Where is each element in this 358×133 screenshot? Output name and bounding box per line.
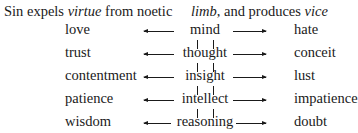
diagram-row: trust thought conceit	[0, 44, 353, 64]
diagram-row: patience intellect impatience	[0, 90, 353, 110]
arrow-left-icon	[144, 54, 174, 55]
virtue-word: wisdom	[65, 113, 111, 130]
virtue-word: love	[65, 21, 90, 38]
arrow-left-icon	[144, 123, 171, 124]
header-text: from noetic	[101, 3, 172, 19]
diagram-row: love mind hate	[0, 21, 353, 41]
arrow-right-icon	[233, 77, 266, 78]
diagram-row: contentment insight lust	[0, 67, 353, 87]
arrow-right-icon	[233, 100, 266, 101]
header-limb: limb	[191, 3, 217, 19]
header-text: Sin expels	[4, 3, 68, 19]
arrow-right-icon	[233, 54, 266, 55]
vice-word: lust	[294, 67, 315, 84]
vice-word: impatience	[294, 90, 358, 107]
arrow-right-icon	[233, 31, 266, 32]
virtue-word: patience	[65, 90, 113, 107]
header-left: Sin expels virtue from noetic	[4, 3, 172, 20]
vice-word: hate	[294, 21, 318, 38]
header-right: limb, and produces vice	[191, 3, 328, 20]
arrow-left-icon	[144, 77, 174, 78]
vice-word: doubt	[294, 113, 327, 130]
arrow-left-icon	[144, 100, 174, 101]
arrow-right-icon	[236, 123, 266, 124]
faculty-word: thought	[183, 44, 227, 61]
header-virtue: virtue	[68, 3, 102, 19]
faculty-word: intellect	[182, 90, 229, 107]
faculty-word: insight	[185, 67, 224, 84]
arrow-left-icon	[144, 31, 174, 32]
virtue-word: trust	[65, 44, 91, 61]
virtue-word: contentment	[65, 67, 137, 84]
vice-word: conceit	[294, 44, 336, 61]
header-text: , and produces	[217, 3, 305, 19]
header-vice: vice	[305, 3, 328, 19]
faculty-word: reasoning	[177, 113, 233, 130]
faculty-word: mind	[190, 21, 220, 38]
diagram-row: wisdom reasoning doubt	[0, 113, 353, 133]
